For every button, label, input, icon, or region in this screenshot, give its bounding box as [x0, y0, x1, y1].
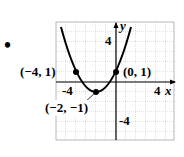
label-vertex: (−2, −1)	[45, 100, 88, 116]
x-tick-4: 4	[154, 83, 161, 99]
grid	[56, 22, 174, 140]
x-tick-neg4: -4	[62, 83, 73, 99]
y-tick-4: 4	[105, 33, 112, 49]
point-a	[73, 69, 79, 75]
label-a: (−4, 1)	[20, 64, 56, 80]
x-label: x	[165, 83, 172, 99]
label-b: (0, 1)	[123, 64, 151, 80]
point-b	[113, 69, 119, 75]
bullet: •	[4, 34, 11, 57]
y-tick-neg4: -4	[119, 113, 130, 129]
y-label: y	[120, 18, 126, 34]
